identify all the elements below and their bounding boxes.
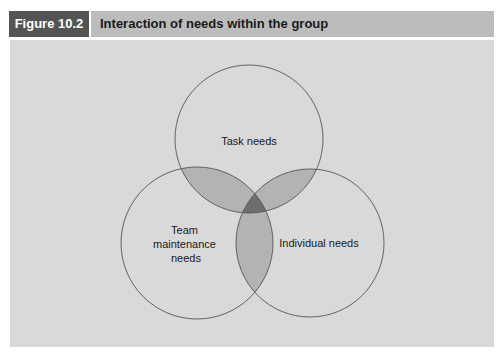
label-individual-needs: Individual needs <box>279 237 359 249</box>
venn-diagram: Task needs Team maintenance needs Indivi… <box>0 0 501 352</box>
label-task-needs: Task needs <box>221 135 277 147</box>
label-team-maintenance-needs: Team maintenance needs <box>153 224 219 264</box>
